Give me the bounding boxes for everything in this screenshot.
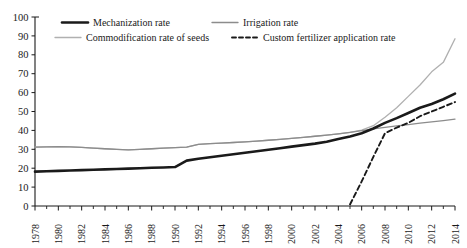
y-axis-tick-label: 50	[18, 106, 29, 117]
x-axis-tick-label: 1988	[146, 224, 157, 244]
legend-label: Mechanization rate	[93, 17, 170, 28]
x-axis-tick-label: 2000	[286, 224, 297, 244]
series-line	[35, 39, 455, 150]
legend-label: Commodification rate of seeds	[86, 32, 209, 43]
x-axis-tick-label: 2006	[356, 224, 367, 244]
y-axis-tick-label: 20	[18, 163, 29, 174]
y-axis-tick-labels: 0102030405060708090100	[13, 12, 29, 212]
x-axis-tick-label: 2012	[426, 224, 437, 244]
legend-label: Custom fertilizer application rate	[263, 32, 396, 43]
y-axis-tick-label: 30	[18, 144, 29, 155]
x-axis-tick-label: 2010	[403, 224, 414, 244]
series-line	[35, 119, 455, 150]
x-axis-tick-label: 2008	[380, 224, 391, 244]
x-axis-tick-label: 1998	[263, 224, 274, 244]
x-axis-tick-label: 1984	[100, 224, 111, 244]
x-axis-tick-label: 1986	[123, 224, 134, 244]
x-axis-tick-label: 1978	[30, 224, 41, 244]
y-axis-tick-label: 60	[18, 87, 29, 98]
series-line	[35, 94, 455, 172]
chart-legend: Mechanization rateIrrigation rateCommodi…	[55, 17, 396, 43]
x-axis-tick-label: 2004	[333, 224, 344, 244]
series-line	[350, 102, 455, 204]
x-axis-tick-label: 1982	[76, 224, 87, 244]
x-axis-tick-label: 1990	[170, 224, 181, 244]
x-axis-tick-label: 1994	[216, 224, 227, 244]
y-axis-tick-label: 0	[23, 201, 28, 212]
chart-series	[35, 39, 455, 205]
x-axis-tick-label: 2014	[450, 224, 461, 244]
y-axis-tick-label: 90	[18, 31, 29, 42]
legend-item: Custom fertilizer application rate	[232, 32, 396, 43]
y-axis-tick-label: 100	[13, 12, 29, 23]
x-axis-tick-labels: 1978198019821984198619881990199219941996…	[30, 224, 461, 244]
y-axis-tick-label: 40	[18, 125, 29, 136]
y-axis-tick-label: 10	[18, 182, 29, 193]
y-axis-tick-label: 70	[18, 68, 29, 79]
legend-item: Commodification rate of seeds	[55, 32, 209, 43]
chart-container: Mechanization rateIrrigation rateCommodi…	[0, 0, 467, 248]
legend-label: Irrigation rate	[243, 17, 299, 28]
chart-axes	[32, 17, 456, 211]
y-axis-tick-label: 80	[18, 49, 29, 60]
x-axis-tick-label: 1996	[240, 224, 251, 244]
legend-item: Irrigation rate	[212, 17, 299, 28]
legend-item: Mechanization rate	[62, 17, 170, 28]
line-chart: Mechanization rateIrrigation rateCommodi…	[0, 0, 467, 248]
x-axis-tick-label: 1992	[193, 224, 204, 244]
x-axis-tick-label: 1980	[53, 224, 64, 244]
x-axis-tick-label: 2002	[310, 224, 321, 244]
